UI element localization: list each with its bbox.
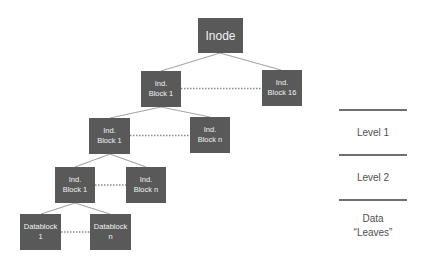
legend-label: Level 2: [338, 172, 408, 184]
legend-label: Level 1: [338, 127, 408, 139]
tree-edge: [75, 154, 110, 167]
node-label: Block 1: [149, 89, 174, 99]
node-datablock-1: Datablock1: [20, 214, 61, 250]
node-l2-block-1: Ind.Block 1: [89, 118, 130, 154]
node-label: Ind.: [140, 175, 153, 185]
legend-divider: [339, 109, 407, 111]
node-label: Ind.: [155, 79, 168, 89]
node-label: n: [108, 232, 112, 242]
node-l1-block-1: Ind.Block 1: [141, 71, 181, 107]
tree-edge: [220, 53, 281, 70]
node-l2-block-n: Ind.Block n: [190, 117, 230, 153]
node-datablock-n: Datablockn: [90, 214, 131, 250]
node-label: Datablock: [94, 222, 127, 232]
node-label: Ind.: [69, 175, 82, 185]
tree-edge: [110, 107, 161, 118]
tree-edge: [75, 203, 110, 214]
legend-label: “Leaves”: [338, 227, 408, 239]
node-label: Block n: [134, 185, 159, 195]
node-label: Ind.: [103, 126, 116, 136]
node-label: Block 16: [268, 88, 297, 98]
legend-label: Data: [338, 213, 408, 225]
tree-edge: [161, 53, 220, 71]
tree-edge: [161, 107, 210, 117]
node-label: Block n: [198, 135, 223, 145]
legend-divider: [339, 199, 407, 201]
inode-tree-diagram: InodeInd.Block 1Ind.Block 16Ind.Block 1I…: [0, 0, 423, 264]
node-label: Block 1: [97, 136, 122, 146]
legend-divider: [339, 154, 407, 156]
node-inode: Inode: [198, 18, 243, 53]
tree-edge: [41, 203, 75, 214]
node-label: Ind.: [204, 125, 217, 135]
tree-edge: [110, 154, 146, 167]
node-l3-block-n: Ind.Block n: [126, 167, 166, 203]
node-label: Ind.: [276, 78, 289, 88]
node-label: Inode: [205, 29, 235, 43]
node-label: 1: [38, 232, 42, 242]
node-label: Block 1: [63, 185, 88, 195]
node-l1-block-16: Ind.Block 16: [262, 70, 302, 106]
node-l3-block-1: Ind.Block 1: [55, 167, 95, 203]
node-label: Datablock: [24, 222, 57, 232]
